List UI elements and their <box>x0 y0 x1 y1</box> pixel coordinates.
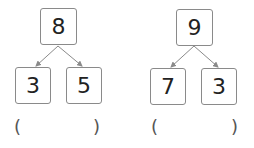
tree-1-right-box: 5 <box>66 67 102 104</box>
arrow-left-icon <box>171 46 194 67</box>
tree-2-answer-open-paren: ( <box>151 118 158 136</box>
tree-2-left-box: 7 <box>150 68 186 105</box>
tree-1-top-number: 8 <box>52 16 66 38</box>
tree-1-top-box: 8 <box>40 8 77 45</box>
tree-2-arrows <box>171 46 218 67</box>
tree-1-right-number: 5 <box>77 75 91 97</box>
tree-2-top-box: 9 <box>176 9 213 46</box>
arrow-left-icon <box>36 46 58 66</box>
tree-1-answer-open-paren: ( <box>14 118 21 136</box>
tree-1-arrows <box>36 46 82 66</box>
tree-2-answer-close-paren: ) <box>231 118 238 136</box>
tree-1-left-box: 3 <box>15 67 51 104</box>
tree-1-answer-close-paren: ) <box>93 118 100 136</box>
tree-2-left-number: 7 <box>161 76 175 98</box>
arrow-right-icon <box>58 46 82 66</box>
tree-2-right-box: 3 <box>201 68 237 105</box>
tree-1-left-number: 3 <box>26 75 40 97</box>
tree-2-right-number: 3 <box>212 76 226 98</box>
tree-2-top-number: 9 <box>188 17 202 39</box>
arrow-right-icon <box>194 46 218 67</box>
